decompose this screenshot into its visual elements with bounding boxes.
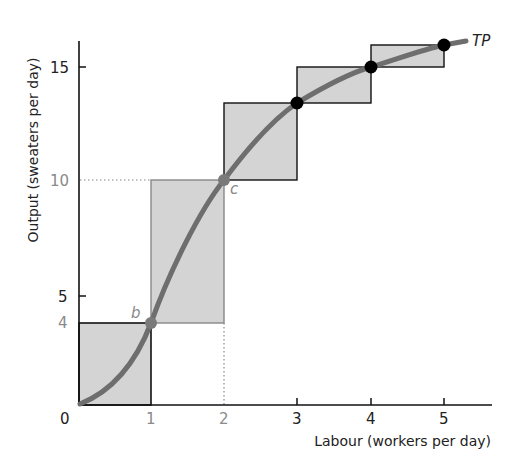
y-label-4: 4	[58, 314, 68, 332]
point-b-label: b	[131, 304, 141, 322]
point-b	[145, 317, 157, 329]
box-1-2	[151, 180, 224, 323]
x-label-5: 5	[439, 410, 449, 428]
x-label-3: 3	[292, 410, 302, 428]
point-4	[365, 61, 378, 74]
y-axis-title: Output (sweaters per day)	[25, 57, 41, 242]
point-5	[438, 39, 451, 52]
point-c	[218, 174, 230, 186]
x-label-1: 1	[146, 410, 156, 428]
point-c-label: c	[230, 180, 239, 198]
tp-curve	[80, 41, 466, 404]
x-label-4: 4	[366, 410, 376, 428]
total-product-chart: b c TP 15 10 5 4 0 1 2 3 4 5 Labour (wor…	[0, 0, 526, 469]
marginal-product-boxes	[79, 45, 444, 405]
x-axis-title: Labour (workers per day)	[314, 433, 491, 449]
box-0-1	[79, 323, 151, 405]
y-label-10: 10	[50, 172, 69, 190]
point-3	[291, 97, 304, 110]
y-label-5: 5	[58, 288, 68, 306]
curve-label: TP	[472, 32, 491, 50]
x-label-0: 0	[60, 410, 70, 428]
x-label-2: 2	[219, 410, 229, 428]
y-label-15: 15	[50, 59, 69, 77]
